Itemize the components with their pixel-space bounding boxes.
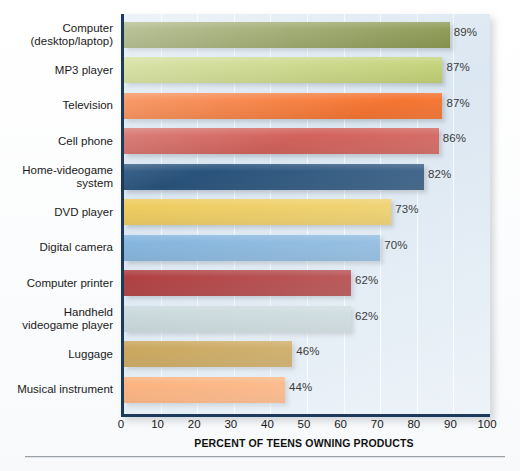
- bottom-divider: [25, 456, 505, 457]
- x-tick-50: 50: [298, 418, 311, 430]
- bar-value-label: 44%: [289, 381, 312, 393]
- x-tick-40: 40: [261, 418, 274, 430]
- bar-value-label: 73%: [395, 203, 418, 215]
- bar-value-label: 86%: [443, 132, 466, 144]
- bar-shading: [124, 377, 285, 403]
- x-axis-title: PERCENT OF TEENS OWNING PRODUCTS: [121, 437, 487, 449]
- category-label: Television: [0, 99, 113, 112]
- x-tick-0: 0: [118, 418, 124, 430]
- bar-row: [124, 22, 490, 48]
- category-label: DVD player: [0, 206, 113, 219]
- bar-row: [124, 306, 490, 332]
- bar: [124, 93, 442, 119]
- bar: [124, 270, 351, 296]
- x-tick-90: 90: [444, 418, 457, 430]
- x-tick-10: 10: [151, 418, 164, 430]
- bar-row: [124, 270, 490, 296]
- bar-shading: [124, 235, 380, 261]
- bar-value-label: 62%: [355, 310, 378, 322]
- bar-value-label: 46%: [296, 345, 319, 357]
- bar-row: [124, 93, 490, 119]
- bar-shading: [124, 93, 442, 119]
- bar-shading: [124, 341, 292, 367]
- bar: [124, 164, 424, 190]
- x-tick-100: 100: [477, 418, 496, 430]
- bar: [124, 199, 391, 225]
- bar-shading: [124, 22, 450, 48]
- x-axis-ticks: 0102030405060708090100: [0, 418, 520, 434]
- bar-value-label: 89%: [454, 26, 477, 38]
- bar-shading: [124, 270, 351, 296]
- bar-value-label: 62%: [355, 274, 378, 286]
- x-tick-70: 70: [371, 418, 384, 430]
- bar: [124, 22, 450, 48]
- bar-chart-figure: Computer (desktop/laptop)MP3 playerTelev…: [0, 0, 520, 471]
- x-tick-30: 30: [224, 418, 237, 430]
- bar-shading: [124, 128, 439, 154]
- bar-row: [124, 128, 490, 154]
- bar-shading: [124, 306, 351, 332]
- category-label: MP3 player: [0, 64, 113, 77]
- bar: [124, 128, 439, 154]
- bar-value-label: 82%: [428, 168, 451, 180]
- x-tick-80: 80: [407, 418, 420, 430]
- bar-row: [124, 199, 490, 225]
- bar-value-label: 70%: [384, 239, 407, 251]
- category-axis-labels: Computer (desktop/laptop)MP3 playerTelev…: [0, 14, 117, 414]
- bar-shading: [124, 57, 442, 83]
- bar-value-label: 87%: [446, 97, 469, 109]
- category-label: Musical instrument: [0, 383, 113, 396]
- category-label: Computer printer: [0, 277, 113, 290]
- bar: [124, 377, 285, 403]
- category-label: Luggage: [0, 348, 113, 361]
- category-label: Digital camera: [0, 241, 113, 254]
- bar: [124, 235, 380, 261]
- category-label: Cell phone: [0, 135, 113, 148]
- bar-shading: [124, 164, 424, 190]
- x-tick-20: 20: [188, 418, 201, 430]
- category-label: Home-videogame system: [0, 164, 113, 190]
- bar: [124, 341, 292, 367]
- bar: [124, 57, 442, 83]
- x-tick-60: 60: [334, 418, 347, 430]
- bar: [124, 306, 351, 332]
- category-label: Computer (desktop/laptop): [0, 22, 113, 48]
- bar-shading: [124, 199, 391, 225]
- category-label: Handheld videogame player: [0, 306, 113, 332]
- bar-row: [124, 235, 490, 261]
- bar-row: [124, 57, 490, 83]
- bar-value-label: 87%: [446, 61, 469, 73]
